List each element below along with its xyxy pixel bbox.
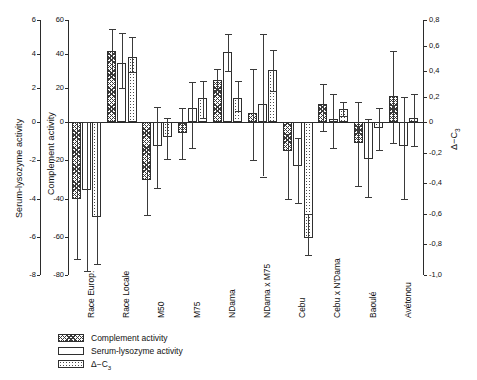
error-bar-cap [250, 160, 257, 161]
error-bar-cap [109, 29, 116, 30]
category-label: NDama x M75 [262, 264, 272, 318]
category-label: Cebu x N'Dama [332, 258, 342, 318]
error-bar [238, 81, 239, 110]
error-bar-cap [129, 72, 136, 73]
axis-tick-label: -6 [8, 232, 36, 241]
error-bar-cap [74, 122, 81, 123]
error-bar-cap [179, 108, 186, 109]
error-bar-cap [285, 199, 292, 200]
error-bar [333, 94, 334, 148]
error-bar-cap [225, 71, 232, 72]
error-bar-cap [376, 150, 383, 151]
error-bar-cap [330, 94, 337, 95]
axis-tick-label: -60 [36, 232, 64, 241]
category-label: NDama [227, 289, 237, 318]
error-bar-cap [260, 34, 267, 35]
error-bar-cap [119, 33, 126, 34]
axis-tick-label: 60 [36, 15, 64, 24]
error-bar-cap [295, 138, 302, 139]
category-label: M75 [192, 301, 202, 318]
error-bar [87, 122, 88, 271]
error-bar-cap [179, 159, 186, 160]
error-bar-cap [365, 119, 372, 120]
error-bar [77, 122, 78, 259]
error-bar-cap [270, 91, 277, 92]
error-bar [167, 118, 168, 159]
error-bar [404, 97, 405, 199]
error-bar-cap [144, 215, 151, 216]
error-bar-cap [340, 102, 347, 103]
axis-tick [65, 20, 68, 21]
error-bar-cap [119, 88, 126, 89]
error-bar-cap [164, 118, 171, 119]
axis-tick-label: 6 [8, 15, 36, 24]
axis-tick-label: 0,2 [429, 92, 457, 101]
category-label: M50 [156, 301, 166, 318]
axis-tick-label: 0,4 [429, 66, 457, 75]
error-bar-cap [189, 82, 196, 83]
axis-tick-label: 0,8 [429, 15, 457, 24]
error-bar-cap [94, 264, 101, 265]
error-bar [112, 29, 113, 73]
error-bar-cap [330, 148, 337, 149]
error-bar-cap [260, 177, 267, 178]
error-bar-cap [154, 188, 161, 189]
category-label: Cebu [297, 298, 307, 318]
axis-tick-label: -80 [36, 270, 64, 279]
legend-label: Complement activity [91, 333, 168, 343]
axis-tick [65, 237, 68, 238]
error-bar-cap [200, 118, 207, 119]
error-bar-cap [305, 214, 312, 215]
axis-tick [65, 54, 68, 55]
axis-tick [65, 275, 68, 276]
error-bar-cap [411, 146, 418, 147]
error-bar [203, 81, 204, 118]
error-bar [379, 108, 380, 150]
error-bar-cap [355, 186, 362, 187]
error-bar [253, 69, 254, 160]
legend-label: Serum-lysozyme activity [91, 346, 183, 356]
axis-tick-label: 0 [429, 117, 457, 126]
chart-root: Serum-lysozyme activity 6420-2-4-6-8 Com… [0, 0, 477, 380]
error-bar-cap [235, 81, 242, 82]
axis-tick [65, 160, 68, 161]
axis-tick-label: 2 [8, 83, 36, 92]
error-bar-cap [144, 147, 151, 148]
error-bar [192, 82, 193, 148]
error-bar [368, 119, 369, 197]
error-bar [358, 102, 359, 186]
error-bar-cap [285, 134, 292, 135]
axis-tick-label: -40 [36, 194, 64, 203]
legend-swatch-delta-c3 [58, 360, 84, 368]
error-bar-cap [164, 159, 171, 160]
error-bar [228, 34, 229, 71]
error-bar [298, 138, 299, 203]
error-bar-cap [189, 148, 196, 149]
error-bar [343, 102, 344, 116]
error-bar-cap [154, 107, 161, 108]
error-bar-cap [401, 199, 408, 200]
axis-tick [424, 214, 427, 215]
error-bar-cap [200, 81, 207, 82]
error-bar-cap [225, 34, 232, 35]
error-bar [263, 34, 264, 176]
error-bar-cap [270, 50, 277, 51]
axis-tick-label: -0,6 [429, 209, 457, 218]
error-bar-cap [74, 259, 81, 260]
error-bar-cap [235, 111, 242, 112]
error-bar-cap [355, 102, 362, 103]
category-label: Avétonou [403, 282, 413, 318]
error-bar [288, 134, 289, 199]
category-label: Baoulé [368, 292, 378, 318]
axis-tick [65, 88, 68, 89]
error-bar [308, 214, 309, 255]
error-bar [132, 37, 133, 72]
axis-tick [424, 46, 427, 47]
legend-swatch-serum-lysozyme-activity [58, 347, 84, 355]
error-bar-cap [320, 84, 327, 85]
error-bar-cap [214, 69, 221, 70]
error-bar [393, 51, 394, 143]
axis-tick [424, 153, 427, 154]
error-bar [414, 94, 415, 147]
error-bar [157, 107, 158, 188]
